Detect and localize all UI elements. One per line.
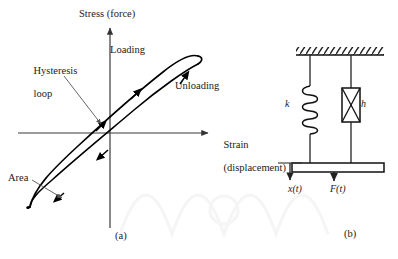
x-axis-label-line1: Strain <box>224 139 249 150</box>
loading-label: Loading <box>110 44 145 56</box>
displacement-label: x(t) <box>288 183 302 194</box>
x-axis-label-line2: (displacement) <box>224 162 286 173</box>
force-label: F(t) <box>330 183 346 194</box>
x-axis-label: Strain (displacement) <box>213 127 286 186</box>
fixed-support <box>296 47 384 55</box>
y-axis-label: Stress (force) <box>79 8 135 20</box>
hysteresis-loop-label: Hysteresis loop <box>23 53 77 112</box>
unloading-label: Unloading <box>175 80 219 92</box>
damper-element <box>342 55 360 163</box>
hysteresis-loop-label-line1: Hysteresis <box>34 65 78 76</box>
spring-constant-label: k <box>285 98 289 109</box>
mass-bar <box>292 163 384 172</box>
area-label: Area <box>8 172 28 184</box>
panel-b-caption: (b) <box>344 228 356 240</box>
hysteresis-loop-label-line2: loop <box>34 88 53 99</box>
figure-root: Stress (force) Strain (displacement) Hys… <box>0 0 398 259</box>
figure-canvas <box>0 0 398 259</box>
damping-coefficient-label: h <box>361 98 366 109</box>
panel-b-spring-damper-system <box>278 47 384 181</box>
panel-a-caption: (a) <box>115 230 127 242</box>
spring-element <box>303 55 318 163</box>
